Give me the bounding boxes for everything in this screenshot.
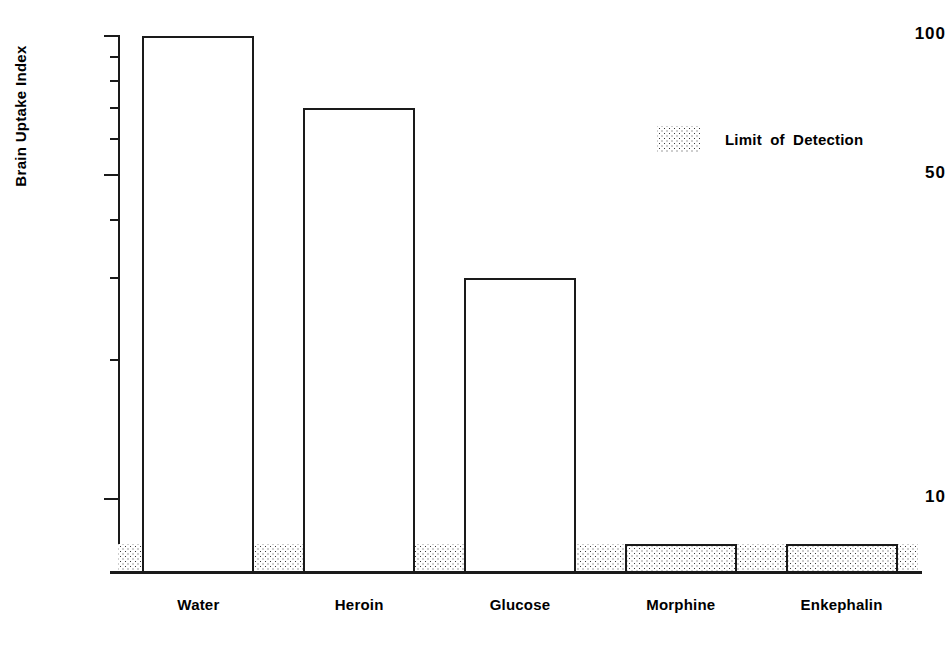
y-axis-tick-10 xyxy=(104,498,118,500)
plot-area xyxy=(118,30,922,573)
y-axis-tick-50 xyxy=(104,174,118,176)
bar-heroin xyxy=(303,108,415,573)
y-axis-minor-tick-20 xyxy=(110,359,118,361)
legend-label-limit-of-detection: Limit of Detection xyxy=(725,131,863,148)
bar-glucose xyxy=(464,278,576,573)
y-axis-minor-tick-30 xyxy=(110,277,118,279)
y-axis-minor-tick-90 xyxy=(110,56,118,58)
brain-uptake-index-bar-chart: Brain Uptake Index 1005010 WaterHeroinGl… xyxy=(0,0,946,647)
x-axis-label-enkephalin: Enkephalin xyxy=(742,596,942,613)
y-axis-minor-tick-40 xyxy=(110,219,118,221)
bar-enkephalin xyxy=(786,544,898,573)
legend: Limit of Detection xyxy=(657,126,863,152)
bar-morphine xyxy=(625,544,737,573)
bar-water xyxy=(142,36,254,573)
y-axis-minor-tick-80 xyxy=(110,80,118,82)
y-axis-minor-tick-70 xyxy=(110,107,118,109)
y-axis-label: Brain Uptake Index xyxy=(6,6,36,226)
y-axis-tick-100 xyxy=(104,35,118,37)
legend-swatch-limit-of-detection xyxy=(657,126,701,152)
y-axis-minor-tick-60 xyxy=(110,138,118,140)
